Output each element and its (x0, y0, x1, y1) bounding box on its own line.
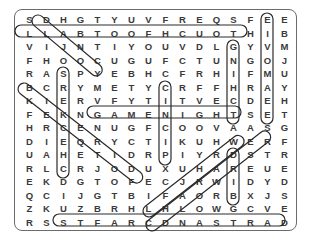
grid-cell[interactable]: T (140, 94, 157, 108)
grid-cell[interactable]: R (242, 81, 259, 95)
grid-cell[interactable]: V (140, 13, 157, 27)
grid-cell[interactable]: O (208, 27, 225, 41)
grid-cell[interactable]: M (259, 67, 276, 81)
grid-cell[interactable]: S (225, 13, 242, 27)
grid-cell[interactable]: H (55, 13, 72, 27)
grid-cell[interactable]: E (242, 162, 259, 176)
grid-cell[interactable]: G (89, 108, 106, 122)
grid-cell[interactable]: V (191, 94, 208, 108)
grid-cell[interactable]: L (21, 27, 38, 41)
grid-cell[interactable]: I (106, 40, 123, 54)
grid-cell[interactable]: F (242, 67, 259, 81)
grid-cell[interactable]: I (140, 189, 157, 203)
grid-cell[interactable]: T (225, 27, 242, 41)
grid-cell[interactable]: A (191, 216, 208, 230)
grid-cell[interactable]: V (174, 40, 191, 54)
grid-cell[interactable]: K (55, 108, 72, 122)
grid-cell[interactable]: C (157, 81, 174, 95)
grid-cell[interactable]: O (55, 54, 72, 68)
grid-cell[interactable]: Y (140, 81, 157, 95)
grid-cell[interactable]: R (174, 81, 191, 95)
grid-cell[interactable]: T (72, 216, 89, 230)
grid-cell[interactable]: I (174, 148, 191, 162)
grid-cell[interactable]: E (242, 135, 259, 149)
grid-cell[interactable]: V (89, 94, 106, 108)
grid-cell[interactable]: N (89, 121, 106, 135)
grid-cell[interactable]: D (38, 13, 55, 27)
grid-cell[interactable]: D (191, 40, 208, 54)
grid-cell[interactable]: C (242, 202, 259, 216)
grid-cell[interactable]: F (157, 54, 174, 68)
grid-cell[interactable]: R (106, 202, 123, 216)
grid-cell[interactable]: F (89, 216, 106, 230)
grid-cell[interactable]: S (55, 216, 72, 230)
grid-cell[interactable]: R (21, 67, 38, 81)
grid-cell[interactable]: H (208, 67, 225, 81)
grid-cell[interactable]: A (55, 27, 72, 41)
grid-cell[interactable]: N (72, 40, 89, 54)
grid-cell[interactable]: F (157, 189, 174, 203)
grid-cell[interactable]: A (225, 121, 242, 135)
grid-cell[interactable]: J (259, 189, 276, 203)
grid-cell[interactable]: F (157, 13, 174, 27)
grid-cell[interactable]: X (157, 162, 174, 176)
grid-cell[interactable]: O (259, 54, 276, 68)
grid-cell[interactable]: Z (21, 202, 38, 216)
grid-cell[interactable]: C (55, 121, 72, 135)
grid-cell[interactable]: E (72, 121, 89, 135)
grid-cell[interactable]: Y (89, 67, 106, 81)
grid-cell[interactable]: S (21, 13, 38, 27)
grid-cell[interactable]: S (208, 216, 225, 230)
grid-cell[interactable]: M (89, 81, 106, 95)
grid-cell[interactable]: U (123, 13, 140, 27)
grid-cell[interactable]: X (242, 189, 259, 203)
grid-cell[interactable]: G (123, 54, 140, 68)
grid-cell[interactable]: Z (72, 202, 89, 216)
grid-cell[interactable]: R (242, 216, 259, 230)
grid-cell[interactable]: Y (276, 81, 293, 95)
grid-cell[interactable]: E (21, 175, 38, 189)
grid-cell[interactable]: B (21, 81, 38, 95)
grid-cell[interactable]: U (208, 54, 225, 68)
grid-cell[interactable]: R (72, 162, 89, 176)
grid-cell[interactable]: O (72, 54, 89, 68)
grid-cell[interactable]: D (225, 148, 242, 162)
grid-cell[interactable]: D (21, 135, 38, 149)
grid-cell[interactable]: U (259, 162, 276, 176)
grid-cell[interactable]: N (225, 54, 242, 68)
grid-cell[interactable]: F (21, 54, 38, 68)
grid-cell[interactable]: T (174, 94, 191, 108)
grid-cell[interactable]: P (72, 67, 89, 81)
grid-cell[interactable]: G (225, 202, 242, 216)
grid-cell[interactable]: D (242, 175, 259, 189)
grid-cell[interactable]: V (208, 121, 225, 135)
grid-cell[interactable]: U (276, 67, 293, 81)
grid-cell[interactable]: R (174, 13, 191, 27)
grid-cell[interactable]: D (242, 94, 259, 108)
grid-cell[interactable]: Q (208, 13, 225, 27)
grid-cell[interactable]: A (242, 121, 259, 135)
grid-cell[interactable]: C (38, 81, 55, 95)
grid-cell[interactable]: U (174, 162, 191, 176)
grid-cell[interactable]: G (72, 175, 89, 189)
grid-cell[interactable]: S (242, 108, 259, 122)
grid-cell[interactable]: E (106, 81, 123, 95)
grid-cell[interactable]: R (276, 148, 293, 162)
grid-cell[interactable]: R (208, 189, 225, 203)
grid-cell[interactable]: S (242, 148, 259, 162)
grid-cell[interactable]: E (38, 108, 55, 122)
grid-cell[interactable]: K (21, 94, 38, 108)
grid-cell[interactable]: A (38, 148, 55, 162)
grid-cell[interactable]: T (89, 27, 106, 41)
grid-cell[interactable]: Y (191, 148, 208, 162)
grid-cell[interactable]: G (89, 189, 106, 203)
grid-cell[interactable]: U (140, 162, 157, 176)
grid-cell[interactable]: F (140, 121, 157, 135)
grid-cell[interactable]: A (106, 216, 123, 230)
grid-cell[interactable]: S (55, 67, 72, 81)
grid-cell[interactable]: J (72, 189, 89, 203)
grid-cell[interactable]: F (123, 175, 140, 189)
grid-cell[interactable]: O (106, 27, 123, 41)
grid-cell[interactable]: K (38, 175, 55, 189)
grid-cell[interactable]: F (276, 135, 293, 149)
